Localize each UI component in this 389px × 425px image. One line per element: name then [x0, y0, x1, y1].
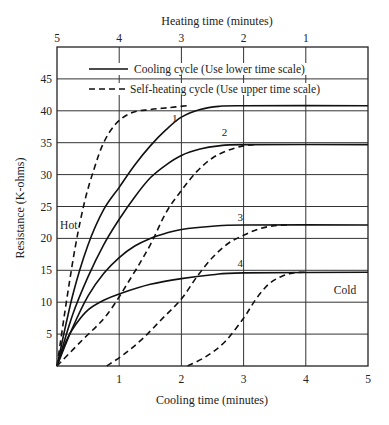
x-tick-bottom: 2	[179, 373, 185, 385]
x-tick-bottom: 4	[303, 373, 309, 385]
y-tick: 35	[41, 137, 53, 149]
curve-1-dashed	[57, 106, 188, 366]
annotation-label: Hot	[60, 219, 78, 231]
x-tick-top: 2	[241, 32, 247, 44]
y-tick: 5	[46, 328, 52, 340]
curve-4-dashed	[188, 272, 306, 366]
y-tick: 20	[41, 232, 53, 244]
legend-label-self-heating: Self-heating cycle (Use upper time scale…	[130, 83, 320, 96]
curve-2-solid	[57, 145, 368, 366]
annotation-label: 3	[237, 211, 243, 223]
x-tick-top: 1	[303, 32, 309, 44]
curves	[57, 106, 368, 366]
x-tick-top: 5	[54, 32, 60, 44]
y-axis-label: Resistance (K-ohms)	[13, 158, 27, 259]
legend-item-cooling: Cooling cycle (Use lower time scale)	[86, 63, 316, 76]
y-tick: 40	[41, 105, 53, 117]
annotation-label: Cold	[334, 284, 357, 296]
legend: Cooling cycle (Use lower time scale) Sel…	[86, 63, 326, 96]
top-axis-label: Heating time (minutes)	[161, 14, 272, 28]
x-tick-bottom: 1	[116, 373, 122, 385]
y-tick: 15	[41, 264, 53, 276]
y-tick: 30	[41, 169, 53, 181]
y-tick: 10	[41, 296, 53, 308]
legend-item-self-heating: Self-heating cycle (Use upper time scale…	[86, 83, 326, 96]
x-tick-top: 3	[179, 32, 185, 44]
x-tick-bottom: 5	[365, 373, 371, 385]
x-tick-bottom: 3	[241, 373, 247, 385]
y-tick: 25	[41, 201, 53, 213]
annotation-label: 4	[237, 257, 243, 269]
x-axis-label: Cooling time (minutes)	[156, 393, 268, 407]
resistance-vs-time-chart: 123455432151015202530354045 Heating time…	[0, 0, 389, 425]
legend-label-cooling: Cooling cycle (Use lower time scale)	[134, 63, 305, 76]
x-tick-top: 4	[116, 32, 122, 44]
curve-4-solid	[57, 272, 368, 366]
curve-2-dashed	[57, 145, 256, 366]
annotation-label: 1	[172, 112, 178, 124]
y-tick: 45	[41, 73, 53, 85]
annotation-label: 2	[222, 126, 228, 138]
